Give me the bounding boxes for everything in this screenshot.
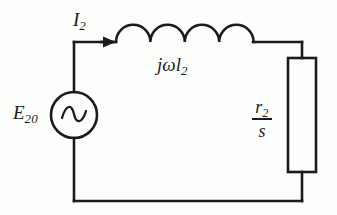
- circuit-diagram: E20 jωl2 I2 r2 s: [0, 0, 337, 215]
- resistor-numerator-subscript: 2: [262, 106, 268, 120]
- source-label-base: E: [13, 102, 25, 123]
- source-label-subscript: 20: [25, 111, 38, 126]
- current-arrow-head-icon: [103, 37, 116, 48]
- resistor-label-denominator: s: [256, 121, 267, 140]
- resistor-label-numerator: r2: [253, 98, 270, 117]
- inductor-coils: [116, 25, 254, 42]
- inductor-label-base: jωl: [157, 54, 181, 75]
- sine-wave-icon: [62, 107, 86, 121]
- circuit-schematic-svg: [0, 0, 337, 215]
- current-label-subscript: 2: [79, 18, 86, 33]
- source-label: E20: [13, 103, 38, 122]
- inductor-label: jωl2: [157, 55, 188, 74]
- inductor-label-subscript: 2: [181, 63, 188, 78]
- resistor-label: r2 s: [252, 98, 272, 140]
- resistor-box: [288, 58, 316, 172]
- current-label: I2: [73, 10, 86, 29]
